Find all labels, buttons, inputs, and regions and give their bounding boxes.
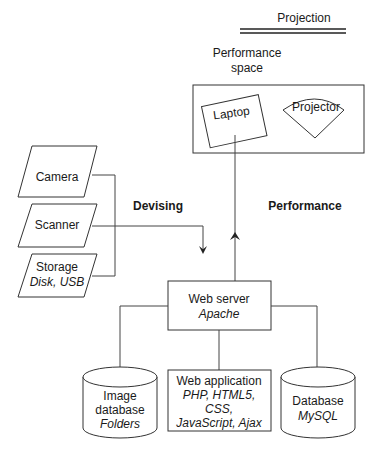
image-db-label-1: Image (103, 389, 137, 403)
projector-label: Projector (292, 100, 340, 114)
devising-label: Devising (133, 199, 183, 213)
image-db-label-2: database (95, 403, 145, 417)
title-projection: Projection (277, 11, 330, 25)
connector-image-db (120, 306, 168, 370)
diagram-canvas: Projection Performance space Laptop Proj… (0, 0, 379, 451)
image-db-sublabel: Folders (100, 417, 140, 431)
camera-label: Camera (36, 170, 79, 184)
web-app-sub3: JavaScript, Ajax (175, 416, 263, 430)
scanner-label: Scanner (35, 218, 80, 232)
storage-sublabel: Disk, USB (30, 275, 85, 289)
web-app-label: Web application (176, 374, 261, 388)
database-label: Database (292, 394, 344, 408)
web-server-label: Web server (188, 292, 249, 306)
performance-label: Performance (268, 199, 342, 213)
database-sublabel: MySQL (298, 409, 338, 423)
web-app-sub1: PHP, HTML5, (183, 388, 255, 402)
web-app-sub2: CSS, (205, 402, 233, 416)
performance-space-label-2: space (231, 61, 263, 75)
web-server-sublabel: Apache (198, 307, 240, 321)
storage-label: Storage (36, 260, 78, 274)
connector-database (271, 306, 317, 370)
performance-space-label-1: Performance (213, 46, 282, 60)
devising-arrow (92, 226, 203, 250)
